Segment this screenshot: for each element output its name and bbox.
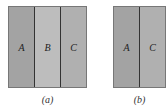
region-c: C: [139, 7, 165, 87]
region-label: A: [123, 42, 129, 53]
region-a: A: [9, 7, 34, 87]
region-label: A: [18, 42, 24, 53]
region-c: C: [60, 7, 86, 87]
figure-b-box: A C: [113, 6, 166, 88]
region-label: C: [70, 42, 77, 53]
region-label: B: [44, 42, 50, 53]
caption-b: (b): [113, 94, 166, 105]
region-a: A: [114, 7, 139, 87]
region-b: B: [34, 7, 60, 87]
region-label: C: [149, 42, 156, 53]
caption-a: (a): [8, 94, 87, 105]
figure-a-box: A B C: [8, 6, 87, 88]
